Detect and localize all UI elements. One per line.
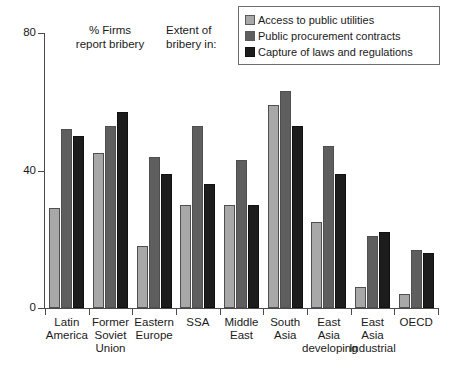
bar	[93, 153, 104, 308]
y-axis-tick	[38, 33, 45, 34]
x-axis-line	[44, 308, 438, 309]
bar	[180, 205, 191, 308]
bar	[323, 146, 334, 308]
x-axis-tick	[394, 308, 395, 315]
bar	[292, 126, 303, 308]
y-axis-tick	[38, 308, 45, 309]
bar	[204, 184, 215, 308]
bar	[311, 222, 322, 308]
x-axis-tick	[132, 308, 133, 315]
bar-group	[93, 33, 128, 308]
x-axis-tick	[45, 308, 46, 315]
bar	[137, 246, 148, 308]
bar	[248, 205, 259, 308]
bar-group	[399, 33, 434, 308]
bar	[117, 112, 128, 308]
x-axis-tick	[438, 308, 439, 315]
bar-group	[180, 33, 215, 308]
y-axis-tick	[38, 171, 45, 172]
legend-label: Access to public utilities	[258, 14, 374, 26]
bar	[236, 160, 247, 308]
bar-group	[268, 33, 303, 308]
x-axis-tick	[351, 308, 352, 315]
x-axis-tick	[263, 308, 264, 315]
bar	[411, 250, 422, 308]
bar	[268, 105, 279, 308]
bar	[399, 294, 410, 308]
x-axis-label: OECD	[389, 316, 443, 329]
bar	[423, 253, 434, 308]
legend-item-access-to-public-utilities: Access to public utilities	[245, 12, 434, 27]
bar	[379, 232, 390, 308]
y-axis-tick-label: 0	[2, 302, 36, 314]
bar	[49, 208, 60, 308]
bar-group	[311, 33, 346, 308]
legend-swatch-icon	[245, 15, 255, 25]
bar	[161, 174, 172, 308]
x-axis-tick	[176, 308, 177, 315]
bribery-bar-chart: Access to public utilities Public procur…	[0, 0, 449, 368]
y-axis-tick-label: 40	[2, 165, 36, 177]
y-axis-tick-label: 80	[2, 27, 36, 39]
bar	[61, 129, 72, 308]
plot-area	[45, 33, 438, 308]
bar	[335, 174, 346, 308]
bar	[149, 157, 160, 308]
x-axis-tick	[220, 308, 221, 315]
bar	[280, 91, 291, 308]
x-axis-tick	[89, 308, 90, 315]
bar-group	[355, 33, 390, 308]
bar-group	[49, 33, 84, 308]
bar-group	[224, 33, 259, 308]
bar	[105, 126, 116, 308]
bar	[367, 236, 378, 308]
bar	[355, 287, 366, 308]
bar	[192, 126, 203, 308]
bar	[73, 136, 84, 308]
bar-group	[137, 33, 172, 308]
bar	[224, 205, 235, 308]
x-axis-tick	[307, 308, 308, 315]
